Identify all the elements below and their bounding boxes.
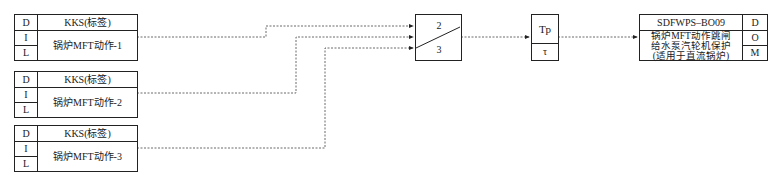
row-i: I [15,30,37,45]
row-l: L [15,102,37,117]
output-desc-line-2: 给水泵汽轮机保护 [651,41,731,51]
wire-input-2 [137,37,413,93]
output-block[interactable]: SDFWPS–BO09 锅炉MFT动作跳闸 给水泵汽轮机保护 (适用于直流锅炉)… [639,14,768,61]
voter-2oo3-block[interactable]: 2 3 [415,14,462,61]
row-i: I [15,141,37,156]
row-d: D [15,126,37,141]
output-tag: SDFWPS–BO09 [640,15,742,30]
output-desc-line-3: (适用于直流锅炉) [653,51,729,61]
input-block-2[interactable]: D I L KKS(标签) 锅炉MFT动作-2 [14,71,138,118]
row-o: O [742,30,767,45]
kks-tag: KKS(标签) [37,72,137,87]
wire-input-1 [137,26,413,37]
kks-tag: KKS(标签) [37,126,137,141]
input-label: 锅炉MFT动作-1 [37,30,137,60]
row-d: D [742,15,767,30]
voter-top-value: 2 [430,19,448,33]
row-m: M [742,45,767,60]
voter-bottom-value: 3 [430,43,448,57]
wire-input-3 [137,48,413,148]
timer-block[interactable]: Tp τ [531,14,559,61]
input-label: 锅炉MFT动作-3 [37,141,137,171]
output-desc-line-1: 锅炉MFT动作跳闸 [651,31,731,41]
input-label: 锅炉MFT动作-2 [37,87,137,117]
kks-tag: KKS(标签) [37,15,137,30]
row-d: D [15,15,37,30]
input-block-1[interactable]: D I L KKS(标签) 锅炉MFT动作-1 [14,14,138,61]
timer-tp: Tp [532,15,558,43]
row-d: D [15,72,37,87]
row-l: L [15,156,37,171]
timer-tau: τ [532,43,558,60]
input-block-3[interactable]: D I L KKS(标签) 锅炉MFT动作-3 [14,125,138,172]
output-description: 锅炉MFT动作跳闸 给水泵汽轮机保护 (适用于直流锅炉) [640,30,742,60]
row-i: I [15,87,37,102]
row-l: L [15,45,37,60]
